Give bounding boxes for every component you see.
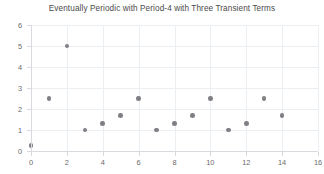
data-point xyxy=(280,113,285,118)
y-axis-tick xyxy=(27,130,31,131)
x-axis-label: 12 xyxy=(236,158,256,167)
x-axis-tick xyxy=(318,152,319,156)
gridline-vertical xyxy=(282,25,283,151)
y-axis-tick xyxy=(27,109,31,110)
x-axis-label: 4 xyxy=(93,158,113,167)
gridline-vertical xyxy=(210,25,211,151)
x-axis-tick xyxy=(246,152,247,156)
y-axis-label: 4 xyxy=(8,63,22,72)
x-axis-tick xyxy=(67,152,68,156)
x-axis-label: 10 xyxy=(200,158,220,167)
gridline-vertical xyxy=(175,25,176,151)
data-point xyxy=(100,121,105,126)
x-axis-tick xyxy=(139,152,140,156)
gridline-vertical xyxy=(318,25,319,151)
y-axis-label: 6 xyxy=(8,21,22,30)
y-axis-label: 2 xyxy=(8,105,22,114)
y-axis-label: 3 xyxy=(8,84,22,93)
x-axis-label: 8 xyxy=(165,158,185,167)
x-axis-label: 16 xyxy=(308,158,324,167)
y-axis-tick xyxy=(27,25,31,26)
x-axis-tick xyxy=(175,152,176,156)
y-axis-tick xyxy=(27,67,31,68)
x-axis-label: 2 xyxy=(57,158,77,167)
scatter-chart: Eventually Periodic with Period-4 with T… xyxy=(0,0,324,174)
data-point xyxy=(83,128,88,133)
gridline-vertical xyxy=(139,25,140,151)
y-axis-label: 0 xyxy=(8,147,22,156)
data-point xyxy=(262,96,267,101)
gridline-vertical xyxy=(246,25,247,151)
x-axis-tick xyxy=(103,152,104,156)
plot-area xyxy=(31,25,318,151)
chart-title: Eventually Periodic with Period-4 with T… xyxy=(0,4,324,13)
y-axis-tick xyxy=(27,88,31,89)
data-point xyxy=(47,96,52,101)
data-point xyxy=(172,121,177,126)
y-axis-label: 1 xyxy=(8,126,22,135)
data-point xyxy=(190,113,195,118)
data-point xyxy=(226,128,231,133)
x-axis-label: 6 xyxy=(129,158,149,167)
data-point xyxy=(208,96,213,101)
data-point xyxy=(154,128,159,133)
data-point xyxy=(118,113,123,118)
x-axis-label: 0 xyxy=(21,158,41,167)
x-axis-tick xyxy=(282,152,283,156)
y-axis-line xyxy=(31,25,32,152)
x-axis-label: 14 xyxy=(272,158,292,167)
data-point xyxy=(65,44,70,49)
gridline-vertical xyxy=(103,25,104,151)
data-point xyxy=(136,96,141,101)
x-axis-tick xyxy=(31,152,32,156)
y-axis-label: 5 xyxy=(8,42,22,51)
y-axis-tick xyxy=(27,46,31,47)
x-axis-tick xyxy=(210,152,211,156)
data-point xyxy=(244,121,249,126)
